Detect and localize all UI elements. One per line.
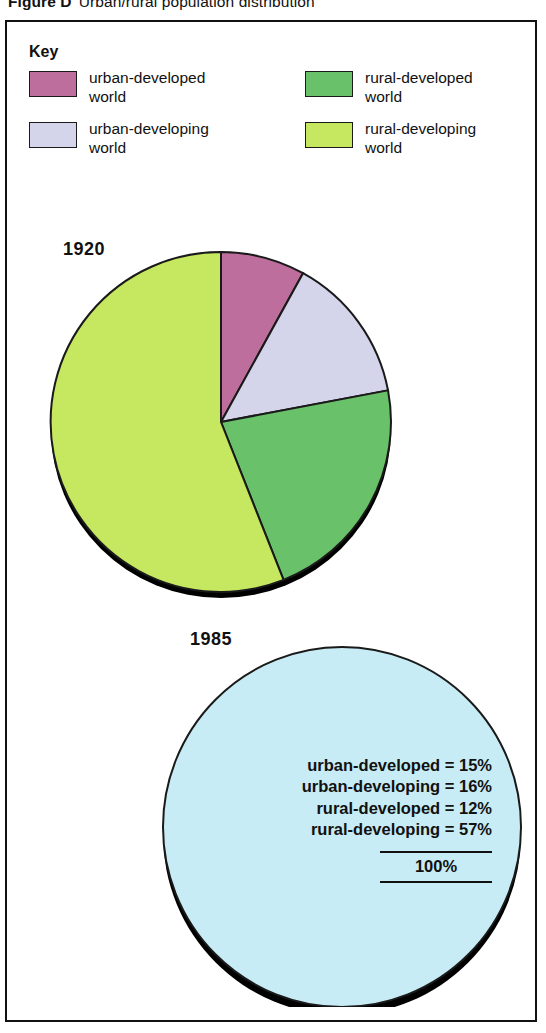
figure-caption: Figure DUrban/rural population distribut… <box>8 0 315 11</box>
circle-1985-year-label: 1985 <box>190 629 232 650</box>
figure-label: Figure D <box>8 0 72 10</box>
breakdown-row-rural-developing: rural-developing = 57% <box>197 819 492 840</box>
legend-grid: urban-developed world rural-developed wo… <box>29 69 519 173</box>
legend-swatch-rural-developing <box>305 122 353 148</box>
legend-label-rural-developed: rural-developed world <box>365 69 473 106</box>
total-value: 100% <box>380 853 492 881</box>
legend-item-rural-developing: rural-developing world <box>305 120 476 157</box>
key-legend: Key urban-developed world rural-develope… <box>29 44 519 173</box>
key-title: Key <box>29 44 519 60</box>
total-rule-bottom <box>380 881 492 883</box>
pie-chart-1920: 1920 <box>39 227 419 602</box>
legend-label-urban-developed: urban-developed world <box>89 69 205 106</box>
figure-title: Urban/rural population distribution <box>79 0 315 10</box>
breakdown-row-urban-developing: urban-developing = 16% <box>197 776 492 797</box>
legend-label-rural-developing: rural-developing world <box>365 120 476 157</box>
figure-frame: Key urban-developed world rural-develope… <box>5 20 537 1022</box>
legend-swatch-rural-developed <box>305 71 353 97</box>
legend-item-urban-developed: urban-developed world <box>29 69 205 106</box>
legend-swatch-urban-developing <box>29 122 77 148</box>
circle-1985: 1985 urban-developed = 15% urban-develop… <box>157 607 537 1007</box>
breakdown-list: urban-developed = 15% urban-developing =… <box>197 755 492 883</box>
legend-swatch-urban-developed <box>29 71 77 97</box>
total-block: 100% <box>380 851 492 883</box>
legend-label-urban-developing: urban-developing world <box>89 120 209 157</box>
pie-1920-graphic <box>39 227 419 602</box>
breakdown-row-rural-developed: rural-developed = 12% <box>197 798 492 819</box>
legend-item-rural-developed: rural-developed world <box>305 69 473 106</box>
breakdown-row-urban-developed: urban-developed = 15% <box>197 755 492 776</box>
legend-item-urban-developing: urban-developing world <box>29 120 209 157</box>
pie-1920-year-label: 1920 <box>63 239 105 260</box>
